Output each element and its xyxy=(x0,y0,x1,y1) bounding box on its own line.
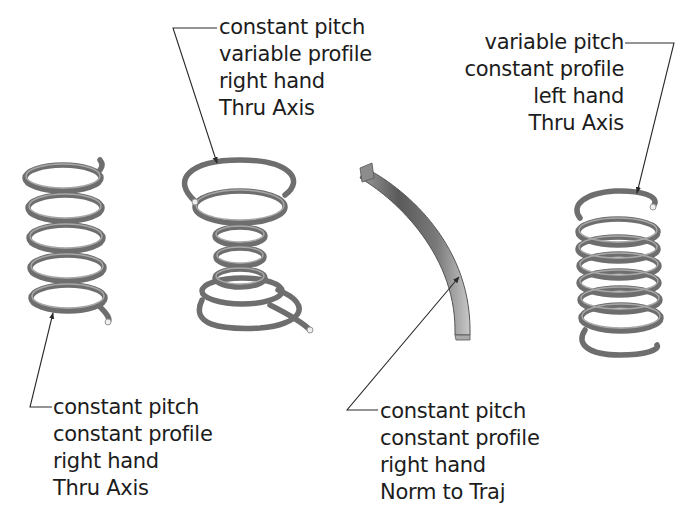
callout-line: constant profile xyxy=(465,56,625,83)
spring-4-coil-icon xyxy=(577,191,661,355)
leader-line-spring-4 xyxy=(625,43,674,193)
callout-line: constant profile xyxy=(53,421,213,448)
spring-2-start-cap xyxy=(192,199,198,205)
callout-line: right hand xyxy=(380,452,540,479)
callout-spring-1: constant pitch constant profile right ha… xyxy=(53,394,213,502)
spring-2-coil-icon xyxy=(185,160,310,330)
callout-line: Thru Axis xyxy=(465,110,625,137)
callout-line: variable profile xyxy=(219,41,372,68)
callout-spring-3: constant pitch constant profile right ha… xyxy=(380,398,540,506)
leader-line-spring-1 xyxy=(30,313,53,407)
spring-4-end-cap xyxy=(650,204,656,210)
leader-line-spring-2 xyxy=(173,28,217,163)
spring-1-end-cap xyxy=(105,319,111,325)
spring-2-end-cap xyxy=(307,327,313,333)
leader-line-spring-3 xyxy=(347,277,459,410)
callout-spring-2: constant pitch variable profile right ha… xyxy=(219,14,372,122)
callout-line: constant pitch xyxy=(53,394,213,421)
callout-line: left hand xyxy=(465,83,625,110)
callout-line: constant pitch xyxy=(380,398,540,425)
spring-3-bar-icon xyxy=(360,163,470,340)
callout-line: right hand xyxy=(219,68,372,95)
callout-line: variable pitch xyxy=(465,29,625,56)
callout-spring-4: variable pitch constant profile left han… xyxy=(465,29,625,137)
callout-line: right hand xyxy=(53,448,213,475)
callout-line: constant pitch xyxy=(219,14,372,41)
callout-line: Thru Axis xyxy=(53,475,213,502)
callout-line: Norm to Traj xyxy=(380,479,540,506)
callout-line: Thru Axis xyxy=(219,95,372,122)
callout-line: constant profile xyxy=(380,425,540,452)
diagram-canvas: constant pitch variable profile right ha… xyxy=(0,0,687,529)
